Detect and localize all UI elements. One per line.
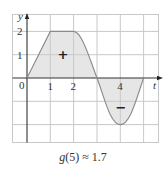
plus-sign: + — [58, 47, 69, 62]
x-axis-arrow-icon — [157, 76, 163, 80]
x-tick-2: 2 — [71, 80, 77, 92]
caption-arg: (5) — [65, 150, 79, 164]
caption: g(5) ≈ 1.7 — [0, 150, 166, 165]
chart: y t 0 1 2 4 2 1 + − — [0, 0, 166, 150]
y-axis-label: y — [17, 10, 23, 22]
minus-sign: − — [116, 100, 127, 115]
y-tick-2: 2 — [17, 25, 23, 37]
caption-value: ≈ 1.7 — [82, 150, 107, 164]
x-tick-4: 4 — [117, 80, 123, 92]
y-axis-arrow-icon — [25, 13, 29, 19]
x-axis-label: t — [153, 79, 157, 91]
origin-label: 0 — [19, 79, 25, 91]
y-tick-1: 1 — [17, 49, 23, 61]
x-tick-1: 1 — [48, 80, 54, 92]
